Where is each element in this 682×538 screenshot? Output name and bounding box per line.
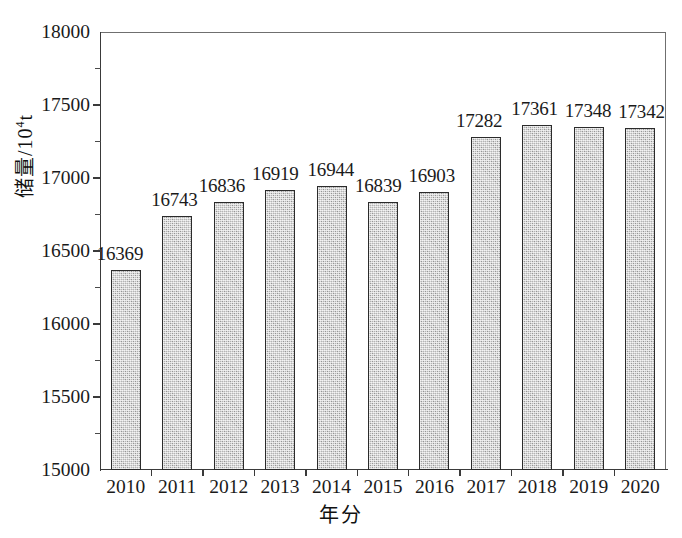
x-axis-tick-mark: [511, 469, 513, 476]
bar-rect: [111, 270, 141, 470]
x-axis-tick-mark: [562, 469, 564, 476]
bar: [419, 192, 449, 470]
x-axis-tick-mark: [408, 469, 410, 476]
x-axis-tick-mark: [459, 469, 461, 476]
bar: [574, 127, 604, 470]
x-axis-tick-mark: [202, 469, 204, 476]
bar-rect: [317, 186, 347, 470]
x-axis-tick-mark: [305, 469, 307, 476]
y-axis-tick-label: 15000: [41, 460, 90, 480]
x-axis-tick-mark: [614, 469, 616, 476]
bar-value-label: 16919: [252, 164, 299, 183]
y-axis-minor-tick-mark: [95, 68, 101, 69]
bar-rect: [162, 216, 192, 470]
bar-value-label: 16836: [199, 176, 246, 195]
bar-value-label: 16743: [151, 190, 198, 209]
x-axis-tick-mark: [151, 469, 153, 476]
y-axis-tick-label: 18000: [41, 22, 90, 42]
y-axis-tick-label: 16500: [41, 241, 90, 261]
bar-chart: 储量/104t 15000155001600016500170001750018…: [0, 0, 682, 538]
x-axis-tick-mark: [254, 469, 256, 476]
y-axis-tick-labels: 15000155001600016500170001750018000: [0, 0, 90, 538]
x-axis-title: 年分: [0, 505, 682, 525]
y-axis-tick-mark: [93, 323, 101, 325]
y-axis-tick-label: 17500: [41, 95, 90, 115]
y-axis-minor-tick-mark: [95, 287, 101, 288]
bar: [368, 202, 398, 470]
y-axis-tick-mark: [93, 396, 101, 398]
y-axis-minor-tick-mark: [95, 141, 101, 142]
y-axis-tick-label: 15500: [41, 387, 90, 407]
y-axis-minor-tick-mark: [95, 214, 101, 215]
bar: [625, 128, 655, 470]
bar-value-label: 16903: [408, 166, 455, 185]
bar-rect: [574, 127, 604, 470]
x-axis-tick-label: 2020: [610, 477, 670, 497]
bar-value-label: 16369: [97, 244, 144, 263]
bar: [214, 202, 244, 470]
bar-rect: [368, 202, 398, 470]
y-axis-tick-label: 17000: [41, 168, 90, 188]
y-axis-tick-mark: [93, 177, 101, 179]
bar-value-label: 17282: [456, 111, 503, 130]
bar-rect: [625, 128, 655, 470]
bar-rect: [214, 202, 244, 470]
bar: [317, 186, 347, 470]
bar: [111, 270, 141, 470]
bar: [265, 190, 295, 470]
bar-value-label: 17348: [565, 101, 612, 120]
y-axis-minor-tick-mark: [95, 360, 101, 361]
bar: [471, 137, 501, 470]
bar-value-label: 16839: [355, 176, 402, 195]
bar-rect: [419, 192, 449, 470]
y-axis-tick-label: 16000: [41, 314, 90, 334]
x-axis-tick-mark: [357, 469, 359, 476]
bar-rect: [265, 190, 295, 470]
bar-value-label: 17342: [618, 102, 665, 121]
y-axis-tick-mark: [93, 250, 101, 252]
bar-rect: [522, 125, 552, 470]
bar: [162, 216, 192, 470]
bar: [522, 125, 552, 470]
y-axis-tick-mark: [93, 104, 101, 106]
y-axis-minor-tick-mark: [95, 433, 101, 434]
bar-value-label: 16944: [308, 160, 355, 179]
bar-rect: [471, 137, 501, 470]
bar-value-label: 17361: [511, 99, 558, 118]
